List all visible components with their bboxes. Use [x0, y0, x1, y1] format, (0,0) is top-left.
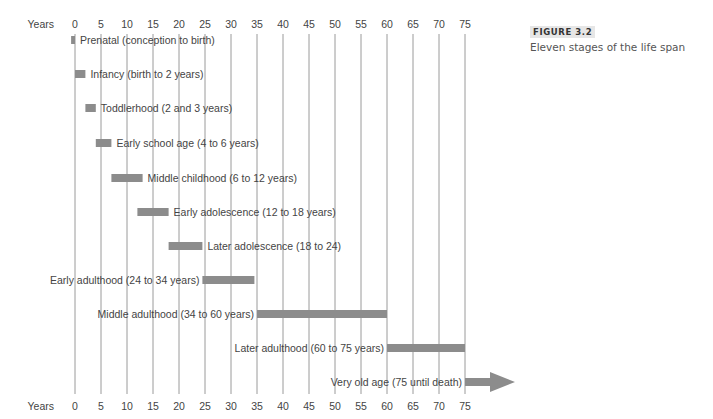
tick-label: 40	[277, 18, 289, 30]
stage-bar	[85, 104, 95, 112]
tick-label: 70	[433, 18, 445, 30]
stage-label: Very old age (75 until death)	[331, 376, 462, 388]
stage-label: Infancy (birth to 2 years)	[90, 68, 203, 80]
tick-label: 40	[277, 400, 289, 412]
tick-label: 55	[355, 18, 367, 30]
tick-label: 25	[199, 18, 211, 30]
tick-label: 15	[147, 400, 159, 412]
stage-bar	[387, 344, 465, 352]
stage-bars: Prenatal (conception to birth)Infancy (b…	[50, 34, 515, 392]
stage-label: Middle childhood (6 to 12 years)	[148, 172, 297, 184]
bottom-axis: Years051015202530354045505560657075	[28, 400, 471, 412]
tick-label: 30	[225, 18, 237, 30]
axis-title: Years	[28, 18, 54, 30]
tick-label: 45	[303, 400, 315, 412]
stage-label: Early adulthood (24 to 34 years)	[50, 274, 199, 286]
tick-label: 0	[72, 18, 78, 30]
tick-label: 75	[459, 18, 471, 30]
tick-label: 15	[147, 18, 159, 30]
tick-label: 60	[381, 400, 393, 412]
stage-bar	[96, 139, 112, 147]
tick-label: 45	[303, 18, 315, 30]
stage-label: Prenatal (conception to birth)	[80, 34, 215, 46]
tick-label: 20	[173, 400, 185, 412]
stage-label: Middle adulthood (34 to 60 years)	[98, 308, 254, 320]
tick-label: 35	[251, 400, 263, 412]
tick-label: 50	[329, 400, 341, 412]
tick-label: 65	[407, 400, 419, 412]
tick-label: 30	[225, 400, 237, 412]
tick-label: 25	[199, 400, 211, 412]
life-span-chart: Prenatal (conception to birth)Infancy (b…	[0, 0, 713, 419]
tick-label: 70	[433, 400, 445, 412]
tick-label: 55	[355, 400, 367, 412]
tick-label: 5	[98, 400, 104, 412]
stage-bar	[202, 276, 254, 284]
stage-bar	[257, 310, 387, 318]
tick-label: 75	[459, 400, 471, 412]
tick-label: 10	[121, 18, 133, 30]
stage-label: Later adolescence (18 to 24)	[207, 240, 341, 252]
tick-label: 10	[121, 400, 133, 412]
stage-bar	[71, 36, 75, 44]
tick-label: 65	[407, 18, 419, 30]
tick-label: 60	[381, 18, 393, 30]
tick-label: 50	[329, 18, 341, 30]
stage-label: Toddlerhood (2 and 3 years)	[101, 102, 232, 114]
tick-label: 20	[173, 18, 185, 30]
stage-label: Early adolescence (12 to 18 years)	[174, 206, 336, 218]
stage-bar	[137, 208, 168, 216]
stage-bar	[75, 70, 85, 78]
axis-title: Years	[28, 400, 54, 412]
stage-label: Early school age (4 to 6 years)	[116, 137, 258, 149]
figure-caption: Eleven stages of the life span	[530, 41, 685, 53]
stage-bar	[169, 242, 203, 250]
arrow-bar	[465, 372, 515, 392]
figure-label: FIGURE 3.2	[530, 26, 595, 38]
tick-label: 35	[251, 18, 263, 30]
stage-bar	[111, 174, 142, 182]
tick-label: 0	[72, 400, 78, 412]
stage-label: Later adulthood (60 to 75 years)	[235, 342, 384, 354]
tick-label: 5	[98, 18, 104, 30]
top-axis: Years051015202530354045505560657075	[28, 18, 471, 30]
